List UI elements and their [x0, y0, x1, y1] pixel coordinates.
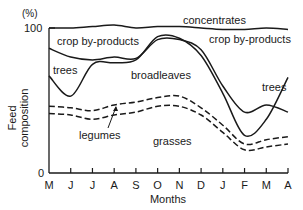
label-concentrates: concentrates	[183, 14, 246, 26]
x-ticks	[71, 168, 288, 173]
x-tick-label: N	[175, 179, 183, 191]
x-tick-label: A	[111, 179, 119, 191]
x-tick-label: M	[262, 179, 271, 191]
label-crop-by-products-right: crop by-products	[209, 33, 291, 45]
x-tick-label: A	[284, 179, 292, 191]
boundary-line-0	[49, 25, 288, 30]
y-tick-label-100: 100	[24, 22, 42, 34]
x-tick-label: S	[132, 179, 139, 191]
y-axis-title-line2: composition	[18, 89, 30, 148]
label-trees-right: trees	[262, 81, 287, 93]
label-crop-by-products-left: crop by-products	[57, 35, 139, 47]
y-tick-label-0: 0	[38, 167, 44, 179]
boundary-line-2	[49, 35, 288, 137]
feed-composition-chart: MJJASONDJFMA (%) 100 0 Feed composition …	[0, 0, 303, 210]
x-tick-label: J	[90, 179, 96, 191]
label-grasses: grasses	[153, 135, 192, 147]
x-tick-label: O	[153, 179, 162, 191]
x-tick-label: J	[68, 179, 74, 191]
legumes-arrowhead-icon	[113, 106, 118, 111]
label-broadleaves: broadleaves	[131, 69, 191, 81]
x-tick-label: D	[197, 179, 205, 191]
x-axis-title: Months	[150, 193, 187, 205]
label-trees-left: trees	[53, 64, 78, 76]
x-tick-label: M	[44, 179, 53, 191]
label-legumes: legumes	[79, 129, 121, 141]
x-tick-labels: MJJASONDJFMA	[44, 179, 292, 191]
x-tick-label: J	[220, 179, 226, 191]
y-unit-label: (%)	[22, 8, 38, 19]
y-axis-title-line1: Feed	[6, 105, 18, 130]
chart-svg: MJJASONDJFMA (%) 100 0 Feed composition …	[0, 0, 303, 210]
x-tick-label: F	[241, 179, 248, 191]
